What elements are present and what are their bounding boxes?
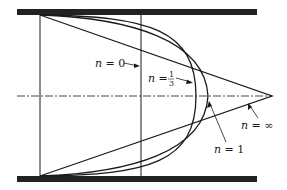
velocity-profile-diagram: n = 0 n = 1 3 n = 1 n = ∞ (0, 0, 287, 190)
label-n-infinity: n = ∞ (241, 103, 273, 132)
profile-n-one-third (40, 15, 196, 176)
label-n-one-third: n = 1 3 (148, 70, 193, 88)
top-wall (17, 9, 257, 15)
svg-text:n = 1: n = 1 (214, 143, 244, 156)
svg-text:n = ∞: n = ∞ (241, 119, 273, 132)
profile-n-1 (40, 15, 208, 176)
svg-text:n = 0: n = 0 (95, 57, 125, 70)
svg-text:3: 3 (169, 79, 174, 88)
svg-text:1: 1 (169, 70, 174, 79)
bottom-wall (17, 176, 257, 182)
label-n-1: n = 1 (207, 101, 244, 156)
svg-text:n =: n = (148, 72, 168, 85)
label-n-0: n = 0 (95, 57, 140, 70)
